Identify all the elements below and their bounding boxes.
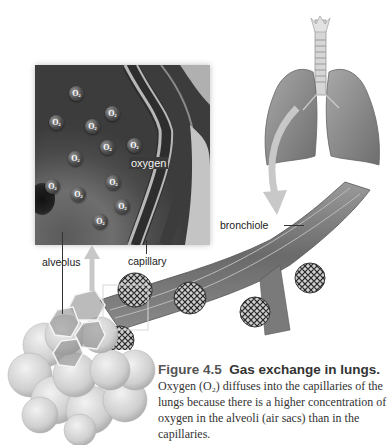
oxygen-molecule: O2 xyxy=(45,179,60,194)
oxygen-molecule: O2 xyxy=(127,138,142,153)
caption-line: capillaries. xyxy=(158,426,386,442)
oxygen-molecule: O2 xyxy=(71,187,86,202)
capillary-label: capillary xyxy=(128,255,167,267)
bronchiole-leader-line xyxy=(284,225,304,226)
oxygen-molecule: O2 xyxy=(85,119,100,134)
figure-title-text: Gas exchange in lungs. xyxy=(229,362,380,377)
bronchiole-label: bronchiole xyxy=(220,219,268,231)
gas-exchange-inset xyxy=(35,65,210,245)
oxygen-molecule: O2 xyxy=(68,151,83,166)
alveoli-cluster xyxy=(5,275,175,445)
alveolus-leader-line xyxy=(62,232,63,314)
figure-title: Figure 4.5 Gas exchange in lungs. xyxy=(158,362,380,377)
oxygen-molecule: O2 xyxy=(69,86,84,101)
caption-line: lungs because there is a higher concentr… xyxy=(158,394,386,410)
caption-line: oxygen in the alveoli (air sacs) than in… xyxy=(158,410,386,426)
figure-number: Figure 4.5 xyxy=(158,362,222,377)
oxygen-molecule: O2 xyxy=(105,106,120,121)
diffusion-arrow-icon xyxy=(82,243,102,293)
caption-line: Oxygen (O₂) diffuses into the capillarie… xyxy=(158,378,386,394)
oxygen-molecule: O2 xyxy=(115,199,130,214)
oxygen-molecule: O2 xyxy=(93,214,108,229)
capillary-leader-line xyxy=(146,240,147,254)
oxygen-molecule: O2 xyxy=(106,175,121,190)
oxygen-label: oxygen xyxy=(129,157,168,169)
oxygen-molecule: O2 xyxy=(100,140,115,155)
figure-caption: Oxygen (O₂) diffuses into the capillarie… xyxy=(158,378,386,442)
oxygen-molecule: O2 xyxy=(49,115,64,130)
capillary-wall xyxy=(35,65,210,245)
